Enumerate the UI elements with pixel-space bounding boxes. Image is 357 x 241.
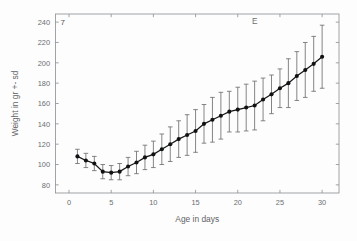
panel-label-e: E [252, 17, 258, 26]
data-point [295, 74, 299, 78]
y-tick-label-100: 100 [38, 160, 50, 169]
data-point [177, 137, 181, 141]
weight-vs-age-chart: 051015202530 80100120140160180200220240 … [0, 0, 357, 241]
y-tick-label-200: 200 [38, 59, 50, 68]
x-axis-title: Age in days [175, 214, 219, 224]
data-point [160, 147, 164, 151]
data-point [253, 103, 257, 107]
corner-label-7: 7 [61, 18, 66, 27]
data-point [227, 110, 231, 114]
y-tick-label-180: 180 [38, 79, 50, 88]
data-point [143, 155, 147, 159]
figure-container: 051015202530 80100120140160180200220240 … [0, 0, 357, 241]
data-point [269, 92, 273, 96]
x-tick-label-0: 0 [67, 198, 71, 207]
plot-frame [56, 14, 340, 193]
weight-series-line [77, 57, 322, 173]
data-point [210, 118, 214, 122]
data-point [312, 62, 316, 66]
data-point [320, 55, 324, 59]
data-point [303, 68, 307, 72]
x-tick-label-15: 15 [191, 198, 199, 207]
y-tick-label-240: 240 [38, 18, 50, 27]
data-point [236, 108, 240, 112]
y-tick-label-140: 140 [38, 120, 50, 129]
error-bars [75, 25, 324, 180]
x-axis-ticks [69, 14, 322, 193]
y-tick-label-120: 120 [38, 140, 50, 149]
data-point [261, 97, 265, 101]
data-point [244, 106, 248, 110]
data-point [134, 160, 138, 164]
x-tick-label-20: 20 [234, 198, 242, 207]
data-point [92, 161, 96, 165]
axes-frame [56, 14, 340, 193]
data-point [219, 114, 223, 118]
data-point [278, 86, 282, 90]
y-axis-ticks [56, 22, 340, 185]
y-axis-title: Weight in gr +- sd [10, 70, 20, 136]
data-point [202, 122, 206, 126]
weight-series-markers [75, 55, 324, 175]
data-point [151, 152, 155, 156]
data-point [286, 81, 290, 85]
data-point [75, 154, 79, 158]
y-tick-label-220: 220 [38, 38, 50, 47]
x-tick-label-25: 25 [276, 198, 284, 207]
x-tick-label-30: 30 [318, 198, 326, 207]
y-axis-tick-labels: 80100120140160180200220240 [38, 18, 50, 190]
data-point [185, 133, 189, 137]
data-point [109, 171, 113, 175]
data-point [126, 165, 130, 169]
data-point [101, 170, 105, 174]
data-point [168, 142, 172, 146]
data-point [84, 158, 88, 162]
y-tick-label-80: 80 [42, 181, 50, 190]
data-point [194, 129, 198, 133]
y-tick-label-160: 160 [38, 99, 50, 108]
x-tick-label-10: 10 [149, 198, 157, 207]
x-axis-tick-labels: 051015202530 [67, 198, 326, 207]
x-tick-label-5: 5 [109, 198, 113, 207]
data-point [118, 170, 122, 174]
